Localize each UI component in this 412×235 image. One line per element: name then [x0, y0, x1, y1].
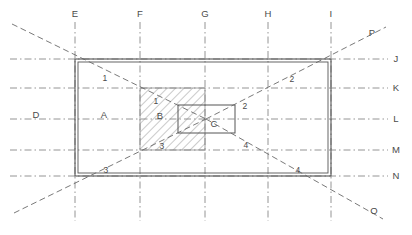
zone-label-A: A [101, 109, 108, 120]
diagram-canvas: E F G H I J K L M N P O A B C D 1 [0, 0, 412, 235]
diagonal-number-3-outer: 3 [104, 165, 109, 175]
row-label-J: J [394, 53, 399, 64]
diagonal-number-4-inner: 4 [244, 140, 249, 150]
column-label-F: F [137, 8, 143, 19]
column-label-H: H [264, 8, 271, 19]
diagonal-line-2 [206, 27, 386, 119]
column-label-E: E [72, 8, 79, 19]
diagonal-number-1-outer: 1 [103, 73, 108, 83]
row-label-N: N [392, 170, 399, 181]
column-label-G: G [201, 8, 209, 19]
diagonal-number-3-inner: 3 [160, 141, 165, 151]
zone-label-B: B [157, 110, 164, 121]
diagonal-number-2-inner: 2 [243, 101, 248, 111]
diagonal-number-4-outer: 4 [296, 165, 301, 175]
zone-label-C: C [210, 118, 217, 129]
diagonal-number-1-inner: 1 [154, 96, 159, 106]
endpoint-label-P: P [369, 27, 376, 38]
hatched-region-b [140, 88, 205, 150]
row-label-K: K [393, 82, 400, 93]
endpoint-label-O: O [370, 205, 378, 216]
diagonal-number-2-outer: 2 [290, 74, 295, 84]
diagonal-line-3 [14, 119, 206, 213]
diagonal-endpoint-labels: P O [369, 27, 378, 216]
projection-diagram: E F G H I J K L M N P O A B C D 1 [0, 0, 412, 235]
column-label-I: I [330, 8, 333, 19]
column-labels: E F G H I [72, 8, 333, 19]
diagonal-line-4 [206, 119, 383, 219]
row-label-M: M [392, 144, 400, 155]
diagonal-line-1 [12, 24, 206, 119]
row-label-L: L [393, 113, 398, 124]
row-labels: J K L M N [392, 53, 400, 181]
zone-label-D: D [32, 109, 39, 120]
